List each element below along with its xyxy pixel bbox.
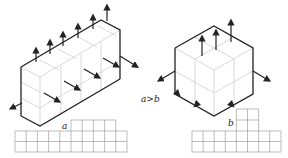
left-grid-label: a bbox=[62, 121, 67, 131]
right-grid bbox=[192, 109, 281, 152]
right-grid-label: b bbox=[228, 118, 234, 128]
left-grid bbox=[15, 120, 127, 152]
right-block bbox=[160, 22, 268, 116]
left-block bbox=[12, 7, 136, 126]
comparison-label: a>b bbox=[141, 94, 160, 104]
diagram-canvas: a>b a b bbox=[0, 0, 288, 158]
